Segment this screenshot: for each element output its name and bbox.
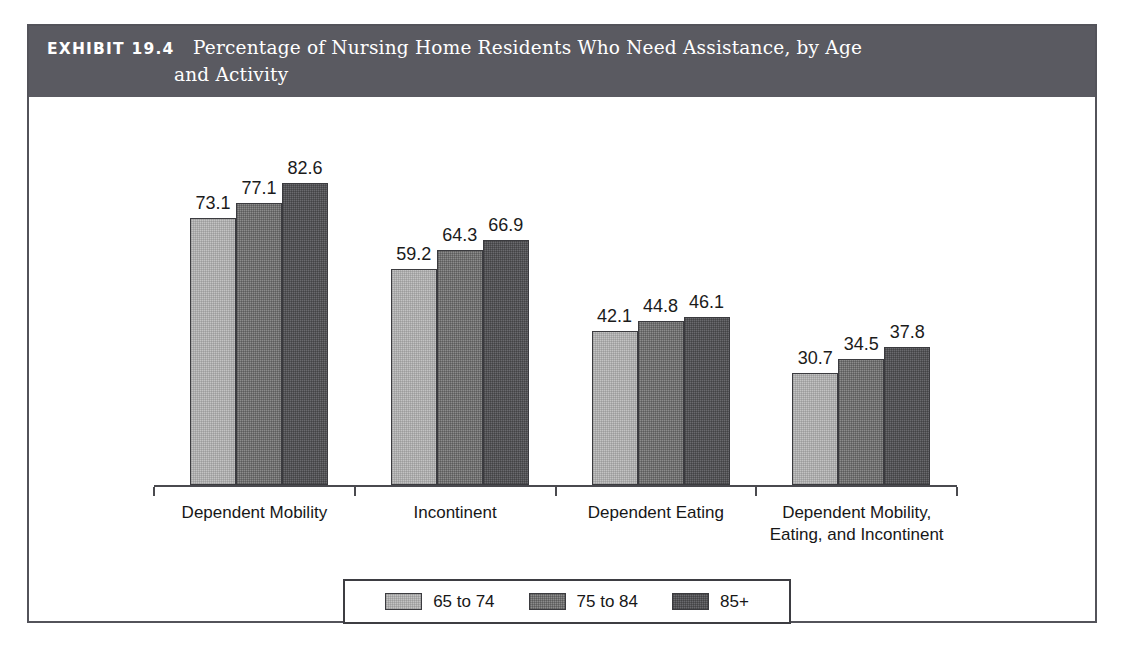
exhibit-header-line-1: EXHIBIT 19.4 Percentage of Nursing Home … bbox=[47, 35, 1077, 62]
bar-value-label: 66.9 bbox=[477, 215, 535, 236]
bar-value-label: 77.1 bbox=[230, 178, 288, 199]
bar-1-2 bbox=[236, 203, 282, 485]
legend-entry-2[interactable]: 75 to 84 bbox=[529, 592, 638, 612]
chart-legend: 65 to 7475 to 8485+ bbox=[343, 579, 791, 624]
bar-2-3 bbox=[483, 240, 529, 485]
x-axis-tick bbox=[755, 487, 757, 496]
legend-label-1: 65 to 74 bbox=[433, 592, 494, 612]
legend-swatch-1 bbox=[385, 593, 422, 610]
x-axis-tick bbox=[956, 487, 958, 496]
bar-value-label: 82.6 bbox=[276, 158, 334, 179]
bar-1-3 bbox=[282, 183, 328, 485]
legend-entry-1[interactable]: 65 to 74 bbox=[385, 592, 494, 612]
x-axis-tick bbox=[555, 487, 557, 496]
legend-entry-3[interactable]: 85+ bbox=[672, 592, 749, 612]
legend-swatch-3 bbox=[672, 593, 709, 610]
exhibit-title-line-2: and Activity bbox=[174, 64, 288, 85]
bar-value-label: 46.1 bbox=[678, 292, 736, 313]
bar-2-1 bbox=[391, 269, 437, 485]
category-label-4: Dependent Mobility, Eating, and Incontin… bbox=[732, 502, 981, 546]
bar-value-label: 59.2 bbox=[385, 244, 443, 265]
legend-label-2: 75 to 84 bbox=[577, 592, 638, 612]
bar-4-3 bbox=[884, 347, 930, 485]
x-axis-tick bbox=[153, 487, 155, 496]
legend-swatch-2 bbox=[529, 593, 566, 610]
bar-1-1 bbox=[190, 218, 236, 485]
chart-plot-area: 73.177.182.659.264.366.942.144.846.130.7… bbox=[29, 97, 1095, 621]
legend-label-3: 85+ bbox=[720, 592, 749, 612]
bar-3-1 bbox=[592, 331, 638, 485]
exhibit-number-label: EXHIBIT 19.4 bbox=[47, 40, 174, 58]
exhibit-header-line-2: and Activity bbox=[47, 62, 1077, 89]
x-axis-tick bbox=[354, 487, 356, 496]
exhibit-frame: EXHIBIT 19.4 Percentage of Nursing Home … bbox=[27, 24, 1097, 623]
bar-4-1 bbox=[792, 373, 838, 485]
exhibit-header: EXHIBIT 19.4 Percentage of Nursing Home … bbox=[29, 26, 1095, 97]
bar-value-label: 37.8 bbox=[878, 322, 936, 343]
bar-4-2 bbox=[838, 359, 884, 485]
bar-2-2 bbox=[437, 250, 483, 485]
exhibit-title-line-1: Percentage of Nursing Home Residents Who… bbox=[193, 37, 862, 58]
bar-3-2 bbox=[638, 321, 684, 485]
bar-3-3 bbox=[684, 317, 730, 485]
